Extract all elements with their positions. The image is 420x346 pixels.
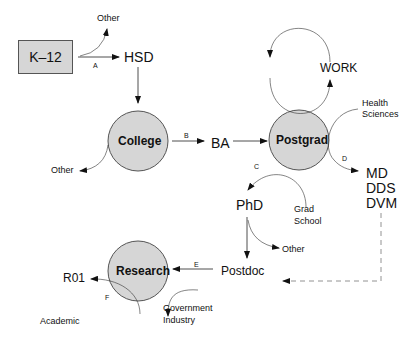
postdoc-label: Postdoc <box>221 265 264 277</box>
academic-label: Academic <box>40 317 80 326</box>
edge-label-e: E <box>194 261 199 268</box>
work-loop-upper <box>270 28 330 62</box>
k12-node: K–12 <box>18 40 73 74</box>
r01-label: R01 <box>63 272 85 284</box>
md-label: MD <box>366 166 388 180</box>
other-label-phd: Other <box>282 245 305 254</box>
government-label: Government <box>163 304 213 313</box>
postgrad-label: Postgrad <box>276 134 328 146</box>
dds-label: DDS <box>366 181 396 195</box>
arrow-k12-other <box>80 29 107 56</box>
arrow-college-other <box>80 145 108 171</box>
grad-label: Grad <box>294 205 314 214</box>
sciences-label: Sciences <box>362 110 399 119</box>
health-label: Health <box>362 99 388 108</box>
other-label-college: Other <box>51 166 74 175</box>
dvm-label: DVM <box>366 196 397 210</box>
arrow-phd-other <box>248 220 279 248</box>
edge-label-c: C <box>254 163 259 170</box>
edge-label-a: A <box>93 62 98 69</box>
work-label: WORK <box>320 62 357 74</box>
college-label: College <box>118 135 161 147</box>
edge-label-f: F <box>105 294 109 301</box>
other-label-top: Other <box>97 14 120 23</box>
hsd-label: HSD <box>124 50 154 64</box>
research-label: Research <box>116 265 170 277</box>
k12-label: K–12 <box>29 49 62 65</box>
industry-label: Industry <box>163 316 195 325</box>
work-loop-lower <box>270 78 330 114</box>
edge-label-d: D <box>342 155 347 162</box>
edge-label-b: B <box>184 132 189 139</box>
school-label: School <box>294 217 322 226</box>
phd-label: PhD <box>236 198 263 212</box>
ba-label: BA <box>211 136 230 150</box>
